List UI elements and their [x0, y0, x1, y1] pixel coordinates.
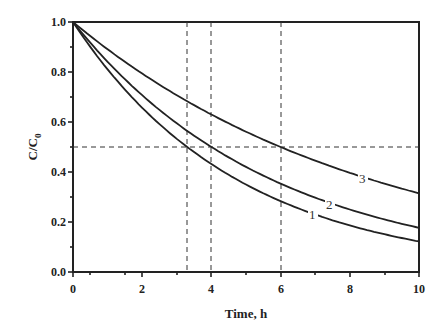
- y-tick-0.4: 0.4: [51, 165, 66, 179]
- chart: 1 2 3 0 2 4 6 8 10 0: [0, 0, 445, 334]
- x-tick-6: 6: [278, 282, 284, 296]
- x-tick-2: 2: [139, 282, 145, 296]
- y-axis-label: C/C0: [25, 133, 43, 160]
- curve-label-3: 3: [359, 171, 366, 186]
- svg-text:C/C0: C/C0: [25, 133, 43, 160]
- y-tick-0.8: 0.8: [51, 65, 66, 79]
- curves: [73, 22, 419, 241]
- y-axis-label-sub: 0: [33, 133, 43, 138]
- x-tick-10: 10: [413, 282, 425, 296]
- x-tick-8: 8: [347, 282, 353, 296]
- x-tick-0: 0: [70, 282, 76, 296]
- y-tick-0.2: 0.2: [51, 215, 66, 229]
- curve-label-2: 2: [326, 197, 333, 212]
- x-axis-label: Time, h: [225, 306, 268, 321]
- ticks: [68, 22, 419, 277]
- x-tick-4: 4: [208, 282, 214, 296]
- reference-lines: [73, 22, 419, 272]
- y-tick-0.6: 0.6: [51, 115, 66, 129]
- curve-label-1: 1: [309, 207, 316, 222]
- y-tick-1.0: 1.0: [51, 15, 66, 29]
- curve-2: [73, 22, 419, 228]
- y-axis-label-main: C/C: [25, 138, 40, 160]
- y-tick-0.0: 0.0: [51, 265, 66, 279]
